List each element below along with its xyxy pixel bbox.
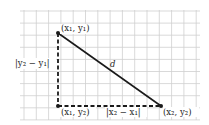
label-corner: (x₁, y₂) [61, 107, 89, 117]
label-vertical-leg: |y₂ − y₁| [15, 58, 50, 69]
point-corner [56, 104, 60, 108]
diagram-canvas: (x₁, y₁) (x₁, y₂) (x₂, y₂) d |y₂ − y₁| |… [0, 0, 209, 125]
distance-diagram: (x₁, y₁) (x₁, y₂) (x₂, y₂) d |y₂ − y₁| |… [0, 0, 209, 125]
point-p1 [56, 31, 60, 35]
label-hypotenuse: d [110, 59, 116, 69]
label-p1: (x₁, y₁) [61, 23, 89, 33]
label-p2: (x₂, y₂) [163, 107, 191, 117]
label-horizontal-leg: |x₂ − x₁| [106, 107, 141, 118]
